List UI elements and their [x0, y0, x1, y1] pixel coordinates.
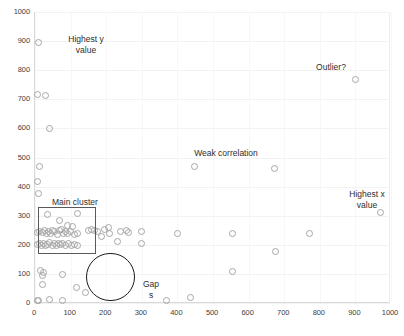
x-axis-tick-label: 900 — [334, 309, 374, 317]
data-point — [46, 125, 53, 132]
annotation-weak-correlation: Weak correlation — [178, 148, 274, 159]
x-axis-tick-label: 200 — [85, 309, 125, 317]
data-point — [46, 296, 53, 303]
annotation-gaps: Gap s — [134, 279, 168, 300]
gridline-vertical — [284, 12, 285, 302]
data-point — [306, 230, 313, 237]
gridline-vertical — [71, 12, 72, 302]
annotation-main-cluster: Main cluster — [52, 197, 124, 208]
data-point — [42, 92, 49, 99]
data-point — [98, 233, 105, 240]
main-cluster-rectangle — [38, 207, 97, 254]
y-axis-tick-label: 300 — [0, 212, 30, 220]
data-point — [35, 39, 42, 46]
x-axis-tick-label: 1000 — [370, 309, 404, 317]
y-axis-tick-label: 700 — [0, 95, 30, 103]
x-axis-tick-label: 0 — [14, 309, 54, 317]
gridline-vertical — [142, 12, 143, 302]
data-point — [35, 190, 42, 197]
y-axis-tick-label: 500 — [0, 154, 30, 162]
y-axis-tick-label: 1000 — [0, 8, 30, 16]
data-point — [82, 289, 89, 296]
data-point — [114, 238, 121, 245]
x-axis-tick-label: 600 — [228, 309, 268, 317]
annotation-highest-y-value: Highest y value — [55, 34, 117, 55]
x-axis-tick-label: 800 — [299, 309, 339, 317]
data-point — [59, 271, 66, 278]
gridline-vertical — [35, 12, 36, 302]
data-point — [34, 178, 41, 185]
x-axis-tick-label: 700 — [263, 309, 303, 317]
annotation-outlier: Outlier? — [303, 62, 359, 73]
data-point — [35, 297, 42, 304]
y-axis-tick-label: 600 — [0, 124, 30, 132]
y-axis-tick-label: 0 — [0, 299, 30, 307]
data-point — [187, 294, 194, 301]
x-axis-tick-label: 400 — [156, 309, 196, 317]
data-point — [106, 230, 113, 237]
data-point — [229, 230, 236, 237]
gridline-horizontal — [35, 303, 390, 304]
gap-circle — [86, 253, 134, 301]
data-point — [39, 281, 46, 288]
gridline-vertical — [391, 12, 392, 302]
data-point — [125, 229, 132, 236]
y-axis-tick-label: 400 — [0, 183, 30, 191]
y-axis-tick-label: 800 — [0, 66, 30, 74]
data-point — [34, 91, 41, 98]
data-point — [39, 272, 46, 279]
data-point — [36, 163, 43, 170]
data-point — [191, 163, 198, 170]
y-axis-tick-label: 200 — [0, 241, 30, 249]
data-point — [352, 76, 359, 83]
annotation-highest-x-value: Highest x value — [338, 189, 396, 210]
data-point — [73, 284, 80, 291]
x-axis-tick-label: 500 — [192, 309, 232, 317]
scatter-chart: 10009008007006005004003002001000 0100200… — [0, 0, 404, 336]
gridline-vertical — [355, 12, 356, 302]
y-axis-tick-label: 100 — [0, 270, 30, 278]
gridline-vertical — [320, 12, 321, 302]
data-point — [271, 165, 278, 172]
x-axis-tick-label: 100 — [50, 309, 90, 317]
x-axis-tick-label: 300 — [121, 309, 161, 317]
data-point — [174, 230, 181, 237]
data-point — [272, 248, 279, 255]
data-point — [138, 228, 145, 235]
y-axis-tick-label: 900 — [0, 37, 30, 45]
